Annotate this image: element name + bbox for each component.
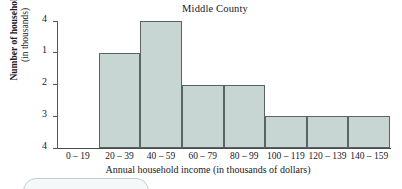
y-tick-label-2: 2	[42, 77, 47, 87]
histogram-figure: Middle County 4 3 2 1 4 0 – 1920 – 3940 …	[0, 0, 402, 189]
bar	[348, 116, 390, 148]
bar	[307, 116, 349, 148]
y-axis-title-line2: (in thousands)	[20, 0, 31, 93]
y-tick-label-1: 1	[42, 45, 47, 55]
callout-fragment	[23, 178, 149, 189]
x-tick-label: 140 – 159	[343, 150, 395, 163]
bar	[99, 53, 141, 148]
y-axis-title-line1: Number of households	[9, 0, 20, 93]
bar	[265, 116, 307, 148]
bar-series	[57, 21, 390, 148]
x-axis-line	[57, 148, 391, 149]
x-axis-title-text: Annual household income (in thousands of…	[106, 164, 311, 175]
bar	[140, 21, 182, 148]
chart-title: Middle County	[0, 3, 402, 14]
x-axis-tick-labels: 0 – 1920 – 3940 – 5960 – 7980 – 99100 – …	[57, 150, 402, 164]
x-axis-title: Annual household income (in thousands of…	[0, 164, 402, 175]
bar	[182, 85, 224, 149]
y-tick-label-top: 4	[42, 14, 47, 24]
bar	[224, 85, 266, 149]
y-tick-label-4: 4	[42, 141, 47, 151]
y-tick-label-3: 3	[42, 109, 47, 119]
y-axis-title: Number of households (in thousands)	[9, 0, 31, 93]
chart-title-text: Middle County	[182, 3, 248, 14]
plot-area: 4 3 2 1 4	[57, 21, 390, 148]
y-tick-4: 4	[53, 148, 58, 149]
